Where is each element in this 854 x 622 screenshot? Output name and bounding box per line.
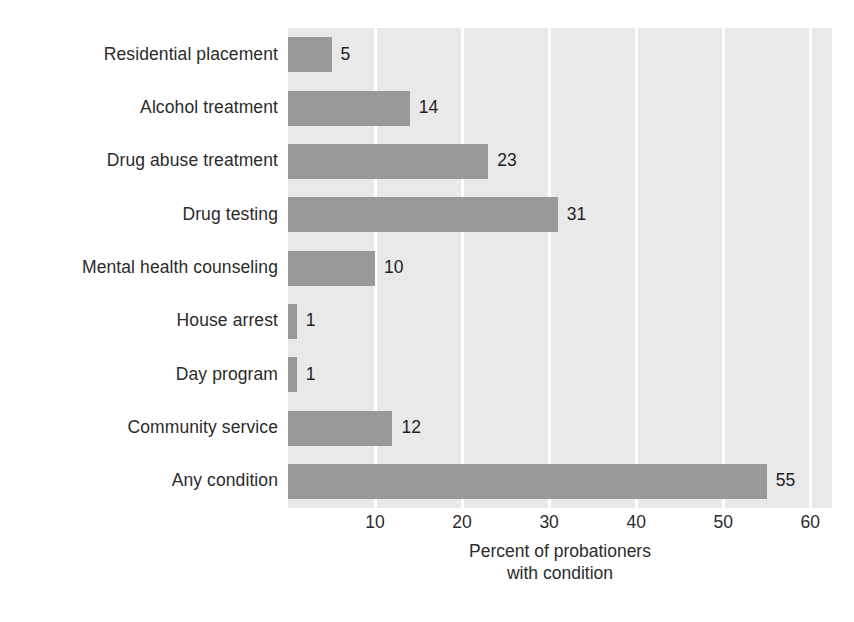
bar	[288, 91, 410, 126]
bar-value-label: 5	[341, 46, 351, 64]
bar	[288, 197, 558, 232]
x-axis: 102030405060	[288, 508, 832, 542]
x-tick-label: 30	[539, 514, 558, 532]
x-tick-mark-50	[722, 502, 725, 508]
x-tick-mark-60	[809, 502, 812, 508]
x-tick-label: 20	[452, 514, 471, 532]
x-tick-label: 10	[365, 514, 384, 532]
x-axis-title: Percent of probationerswith condition	[288, 540, 832, 585]
category-label: Drug testing	[0, 206, 278, 224]
bar-value-label: 31	[567, 206, 586, 224]
plot-area: 514233110111255	[288, 28, 832, 508]
bar	[288, 464, 767, 499]
category-label: Day program	[0, 366, 278, 384]
bar-chart: Residential placementAlcohol treatmentDr…	[0, 0, 854, 622]
x-tick-mark-40	[635, 502, 638, 508]
category-label: Any condition	[0, 472, 278, 490]
bar-value-label: 14	[419, 99, 438, 117]
gridline-40	[635, 28, 638, 508]
x-tick-label: 50	[713, 514, 732, 532]
bar-value-label: 10	[384, 259, 403, 277]
bar	[288, 251, 375, 286]
bar	[288, 144, 488, 179]
bar-value-label: 1	[306, 366, 316, 384]
category-label: Community service	[0, 419, 278, 437]
x-axis-title-line: Percent of probationers	[288, 540, 832, 562]
gridline-60	[809, 28, 812, 508]
bar-value-label: 1	[306, 312, 316, 330]
gridline-30	[548, 28, 551, 508]
x-axis-title-line: with condition	[288, 562, 832, 584]
bar	[288, 37, 332, 72]
x-tick-label: 40	[626, 514, 645, 532]
category-axis: Residential placementAlcohol treatmentDr…	[0, 28, 278, 508]
bar	[288, 357, 297, 392]
bar-value-label: 55	[776, 472, 795, 490]
bar	[288, 304, 297, 339]
bar	[288, 411, 392, 446]
bar-value-label: 23	[497, 152, 516, 170]
x-tick-mark-20	[461, 502, 464, 508]
bar-value-label: 12	[401, 419, 420, 437]
category-label: Mental health counseling	[0, 259, 278, 277]
category-label: Alcohol treatment	[0, 99, 278, 117]
x-tick-mark-10	[374, 502, 377, 508]
category-label: Residential placement	[0, 46, 278, 64]
x-tick-mark-30	[548, 502, 551, 508]
x-tick-label: 60	[801, 514, 820, 532]
gridline-20	[461, 28, 464, 508]
gridline-50	[722, 28, 725, 508]
category-label: House arrest	[0, 312, 278, 330]
category-label: Drug abuse treatment	[0, 152, 278, 170]
